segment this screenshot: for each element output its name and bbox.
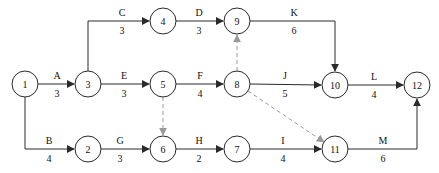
edge-duration-label-J: 5 [283,88,288,99]
node-label-12: 12 [412,80,422,91]
edge-activity-label-J: J [283,70,287,81]
edge-duration-label-I: 4 [281,153,286,164]
node-9: 9 [224,8,250,34]
node-4: 4 [150,8,176,34]
node-3: 3 [75,71,101,97]
edge-duration-label-B: 4 [47,153,52,164]
edge-duration-label-F: 4 [198,88,203,99]
node-11: 11 [322,136,348,162]
node-label-3: 3 [86,79,91,90]
edge-activity-label-M: M [379,135,388,146]
edge-activity-label-E: E [121,70,127,81]
edge-activity-label-K: K [290,7,298,18]
edge-C [88,21,149,71]
edge-duration-label-H: 2 [197,153,202,164]
node-label-2: 2 [86,144,91,155]
network-diagram: A3B4C3D3E3F4G3H2I4J5K6L4M612345678910111… [0,0,439,173]
node-label-8: 8 [235,79,240,90]
edge-activity-label-H: H [195,135,202,146]
edge-activity-label-A: A [53,70,61,81]
node-label-5: 5 [161,79,166,90]
node-label-7: 7 [235,144,240,155]
edge-activity-label-G: G [116,135,123,146]
node-8: 8 [224,71,250,97]
edge-activity-label-C: C [119,7,126,18]
edge-duration-label-K: 6 [292,25,297,36]
node-label-6: 6 [161,144,166,155]
node-1: 1 [12,71,38,97]
node-label-11: 11 [330,144,340,155]
edge-duration-label-M: 6 [381,153,386,164]
node-5: 5 [150,71,176,97]
edge-activity-label-D: D [195,7,202,18]
edge-duration-label-D: 3 [197,25,202,36]
diagram-canvas: A3B4C3D3E3F4G3H2I4J5K6L4M612345678910111… [0,0,439,173]
edge-activity-label-B: B [46,135,53,146]
node-6: 6 [150,136,176,162]
edge-duration-label-A: 3 [55,88,60,99]
node-10: 10 [322,72,348,98]
edge-J [250,84,321,85]
node-label-4: 4 [161,16,166,27]
node-7: 7 [224,136,250,162]
edge-activity-label-I: I [281,135,284,146]
edge-duration-label-G: 3 [118,153,123,164]
edge-duration-label-L: 4 [372,89,377,100]
node-2: 2 [75,136,101,162]
node-label-1: 1 [23,79,28,90]
edge-duration-label-C: 3 [120,25,125,36]
edge-duration-label-E: 3 [122,88,127,99]
node-label-10: 10 [330,80,340,91]
edge-activity-label-F: F [197,70,203,81]
edge-activity-label-L: L [371,71,377,82]
node-label-9: 9 [235,16,240,27]
node-12: 12 [404,72,430,98]
